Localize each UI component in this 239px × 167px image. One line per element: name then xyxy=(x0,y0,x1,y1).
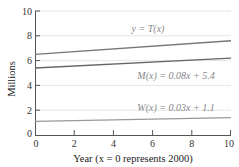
y-axis-label: Millions xyxy=(6,61,17,97)
y-tick-0: 0 xyxy=(27,128,32,139)
x-tick-6: 6 xyxy=(150,138,155,149)
y-tick-6: 6 xyxy=(27,55,32,66)
series-W-line xyxy=(35,118,231,122)
y-tick-8: 8 xyxy=(27,30,32,41)
y-tick-2: 2 xyxy=(27,105,32,116)
x-tick-0: 0 xyxy=(34,138,39,149)
annotation-M: M(x) = 0.08x + 5.4 xyxy=(136,70,214,82)
y-tick-4: 4 xyxy=(27,80,32,91)
x-tick-2: 2 xyxy=(72,138,77,149)
x-axis-label: Year (x = 0 represents 2000) xyxy=(73,153,193,165)
series-T-line xyxy=(35,41,231,55)
line-chart: 10 8 6 4 2 0 0 2 4 6 8 10 Year (x = 0 re… xyxy=(0,0,239,167)
annotation-W: W(x) = 0.03x + 1.1 xyxy=(137,102,214,114)
x-tick-8: 8 xyxy=(189,138,194,149)
annotation-T: y = T(x) xyxy=(131,23,166,35)
x-tick-10: 10 xyxy=(224,138,234,149)
y-tick-10: 10 xyxy=(22,6,32,17)
x-tick-4: 4 xyxy=(111,138,116,149)
series-M-line xyxy=(35,58,231,68)
